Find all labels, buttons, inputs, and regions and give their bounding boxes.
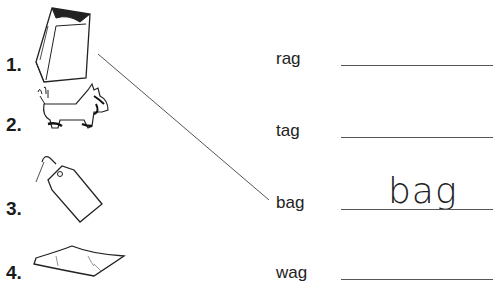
rag-cloth-icon: [32, 244, 130, 278]
item-number-3: 3.: [6, 198, 22, 220]
word-rag: rag: [276, 49, 301, 69]
item-number-2: 2.: [6, 114, 22, 136]
item-number-4: 4.: [6, 262, 22, 284]
word-wag: wag: [276, 263, 307, 283]
answer-blank-tag[interactable]: [341, 137, 493, 138]
answer-blank-rag[interactable]: [341, 65, 493, 66]
word-bag: bag: [276, 193, 304, 213]
dog-icon: [34, 82, 114, 134]
answer-blank-wag[interactable]: [341, 279, 493, 280]
paper-bag-icon: [34, 4, 94, 84]
word-tag: tag: [276, 121, 300, 141]
price-tag-icon: [34, 152, 106, 224]
answer-blank-bag[interactable]: [341, 209, 493, 210]
item-number-1: 1.: [6, 54, 22, 76]
answer-bag: bag: [388, 170, 458, 211]
